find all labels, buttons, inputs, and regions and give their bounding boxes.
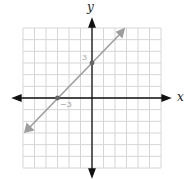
x-intercept-label: −3: [60, 101, 72, 109]
y-axis-label: y: [87, 1, 94, 13]
y-axis-down-arrow-icon: [89, 169, 95, 177]
x-axis-right-arrow-icon: [162, 95, 170, 101]
axes: [13, 19, 170, 177]
coordinate-graph: y x 3 −3: [0, 0, 195, 179]
graph-svg: [0, 0, 195, 179]
x-axis-left-arrow-icon: [13, 95, 21, 101]
x-axis-label: x: [177, 91, 184, 103]
y-axis-up-arrow-icon: [89, 19, 95, 27]
y-intercept-label: 3: [82, 54, 87, 62]
y-intercept-point: [90, 61, 95, 66]
plotted-line: [25, 29, 124, 132]
